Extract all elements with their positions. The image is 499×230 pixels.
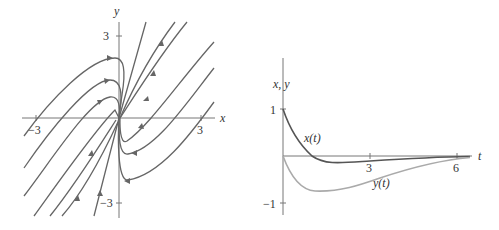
t-axis-label: t bbox=[478, 149, 482, 163]
component-plot: x, y t 1 −1 3 6 x(t) y(t) bbox=[263, 58, 482, 215]
x-tick-label-neg3: −3 bbox=[28, 123, 41, 137]
y-axis-label: y bbox=[113, 4, 120, 18]
arrow-icon bbox=[97, 190, 103, 196]
figure: x y −3 3 3 −3 bbox=[0, 0, 499, 230]
phase-portrait: x y −3 3 3 −3 bbox=[22, 4, 226, 218]
x-curve-label: x(t) bbox=[303, 131, 321, 145]
arrow-icon bbox=[88, 150, 94, 156]
y-tick-label-3: 3 bbox=[103, 29, 109, 43]
x-axis-label: x bbox=[219, 111, 226, 125]
xy-axis-label: x, y bbox=[272, 77, 290, 91]
tick-label-neg1: −1 bbox=[263, 197, 276, 211]
x-tick-label-3: 3 bbox=[197, 123, 203, 137]
y-tick-label-neg3: −3 bbox=[100, 196, 113, 210]
tick-label-1: 1 bbox=[270, 103, 276, 117]
arrow-icon bbox=[107, 55, 113, 61]
arrow-icon bbox=[143, 96, 149, 101]
arrow-icon bbox=[104, 78, 110, 84]
y-curve-label: y(t) bbox=[372, 176, 390, 190]
tick-label-6: 6 bbox=[453, 161, 459, 175]
tick-label-3: 3 bbox=[366, 161, 372, 175]
arrow-icon bbox=[131, 150, 137, 156]
